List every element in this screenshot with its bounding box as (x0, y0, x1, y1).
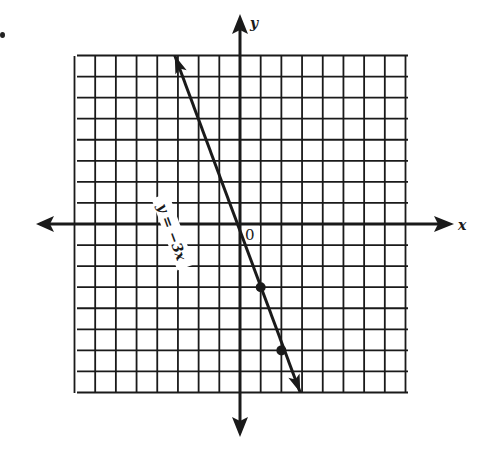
plotted-point (276, 345, 286, 355)
y-axis-label: y (249, 15, 259, 31)
coordinate-plane-figure: x y 0 y = −3x (0, 0, 491, 454)
equation-label-text: y = −3x (154, 200, 190, 263)
plotted-point (256, 282, 266, 292)
x-axis-label: x (457, 217, 467, 233)
origin-label: 0 (245, 226, 255, 244)
